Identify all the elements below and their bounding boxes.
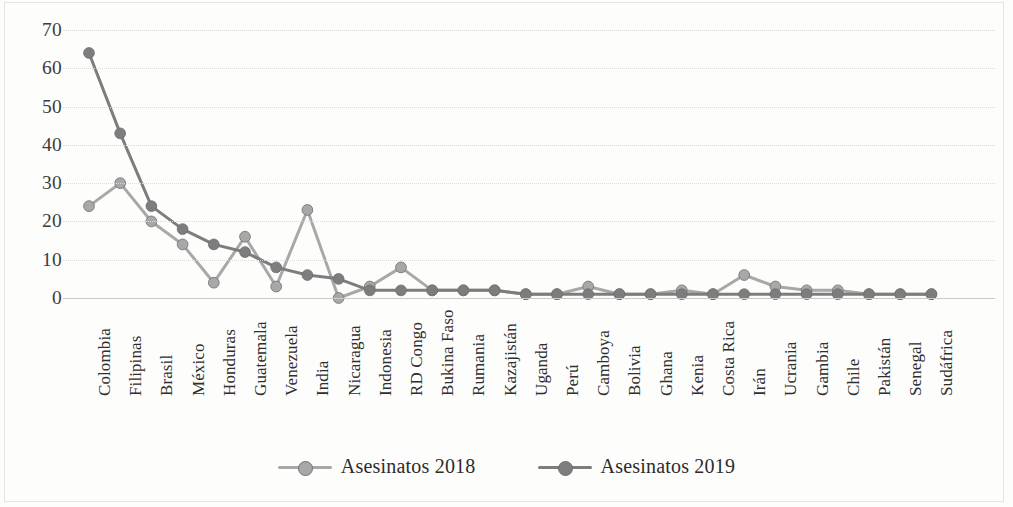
plot-area [63,30,995,298]
gridline-50 [63,107,995,108]
data-point-marker [115,128,126,139]
x-tick-label: Colombia [95,328,115,396]
legend-label: Asesinatos 2019 [601,455,736,478]
x-tick-label: Costa Rica [719,321,739,396]
x-tick-label: Guatemala [251,321,271,396]
y-axis-tick-labels: 010203040506070 [20,30,62,298]
legend-item[interactable]: Asesinatos 2019 [538,455,736,478]
x-tick-label: Filipinas [126,336,146,396]
x-tick-label: Uganda [532,343,552,396]
x-tick-label: Senegal [906,341,926,396]
x-tick-label: México [189,343,209,396]
gridline-30 [63,183,995,184]
x-tick-label: Bukina Faso [438,309,458,396]
x-tick-label: Chile [844,359,864,396]
y-tick-40: 40 [42,134,62,156]
series-line [89,53,931,294]
y-tick-60: 60 [42,57,62,79]
data-point-marker [208,239,219,250]
x-tick-label: Perú [563,364,583,396]
data-point-marker [177,239,188,250]
y-tick-30: 30 [42,172,62,194]
legend-marker-icon [538,460,592,474]
legend-label: Asesinatos 2018 [341,455,476,478]
y-tick-50: 50 [42,96,62,118]
data-point-marker [302,270,313,281]
x-tick-label: Honduras [220,329,240,396]
x-tick-label: Venezuela [282,325,302,396]
legend-marker-icon [278,460,332,474]
x-tick-label: Bolivia [625,345,645,396]
x-axis-line [63,298,995,299]
x-tick-label: Ucrania [781,342,801,397]
x-tick-label: Sudáfrica [937,330,957,396]
data-point-marker [396,262,407,273]
x-tick-label: Ghana [657,351,677,396]
x-tick-label: Rumania [469,334,489,396]
data-point-marker [302,205,313,216]
data-point-marker [240,231,251,242]
data-point-marker [739,270,750,281]
gridline-20 [63,221,995,222]
y-tick-70: 70 [42,19,62,41]
data-point-marker [427,285,438,296]
x-axis-tick-labels: ColombiaFilipinasBrasilMéxicoHondurasGua… [63,300,995,400]
series-lines [63,30,995,298]
data-point-marker [177,224,188,235]
x-tick-label: India [313,361,333,396]
x-tick-label: Gambia [813,342,833,396]
x-tick-label: Indonesia [376,329,396,396]
data-point-marker [333,273,344,284]
x-tick-label: Pakistán [875,338,895,396]
data-point-marker [240,247,251,258]
gridline-10 [63,260,995,261]
data-point-marker [271,281,282,292]
chart-figure: 010203040506070 ColombiaFilipinasBrasilM… [0,0,1013,507]
data-point-marker [396,285,407,296]
x-tick-label: Kenia [688,355,708,396]
x-tick-label: Nicaragua [345,325,365,396]
data-point-marker [489,285,500,296]
y-tick-0: 0 [52,287,62,309]
data-point-marker [208,277,219,288]
chart-legend: Asesinatos 2018Asesinatos 2019 [0,455,1013,478]
gridline-60 [63,68,995,69]
x-tick-label: Brasil [157,355,177,396]
gridline-40 [63,145,995,146]
data-point-marker [271,262,282,273]
x-tick-label: RD Congo [407,322,427,396]
legend-item[interactable]: Asesinatos 2018 [278,455,476,478]
y-tick-10: 10 [42,249,62,271]
x-tick-label: Irán [750,368,770,396]
data-point-marker [364,285,375,296]
data-point-marker [146,201,157,212]
data-point-marker [458,285,469,296]
x-tick-label: Camboya [594,330,614,396]
data-point-marker [84,48,95,59]
x-tick-label: Kazajistán [501,323,521,396]
gridline-70 [63,30,995,31]
y-tick-20: 20 [42,210,62,232]
data-point-marker [84,201,95,212]
